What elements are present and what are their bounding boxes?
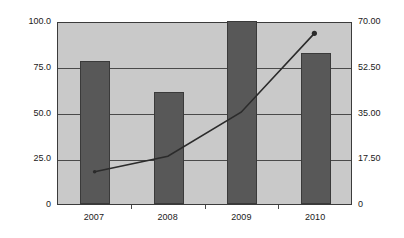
bar-2008 xyxy=(154,92,184,204)
left-axis-tick-label: 0 xyxy=(5,200,51,209)
category-label-2007: 2007 xyxy=(57,212,131,223)
category-tick xyxy=(278,205,279,209)
bar-series xyxy=(58,23,351,204)
chart-container: 025.050.075.0100.0 017.5035.0052.5070.00… xyxy=(0,0,404,238)
right-axis-tick-label: 70.00 xyxy=(358,17,404,26)
category-tick xyxy=(131,205,132,209)
bar-2009 xyxy=(227,21,257,204)
left-value-axis: 025.050.075.0100.0 xyxy=(0,22,51,205)
left-axis-tick-label: 100.0 xyxy=(5,17,51,26)
category-label-2010: 2010 xyxy=(278,212,352,223)
right-axis-tick-label: 52.50 xyxy=(358,63,404,72)
right-value-axis: 017.5035.0052.5070.00 xyxy=(358,22,404,205)
category-label-2008: 2008 xyxy=(131,212,205,223)
right-axis-tick-label: 35.00 xyxy=(358,109,404,118)
category-axis: 2007200820092010 xyxy=(57,212,352,228)
left-axis-tick-label: 75.0 xyxy=(5,63,51,72)
left-axis-tick-label: 50.0 xyxy=(5,109,51,118)
bar-2007 xyxy=(80,61,110,204)
right-axis-tick-label: 17.50 xyxy=(358,154,404,163)
plot-area xyxy=(57,22,352,205)
bar-2010 xyxy=(301,53,331,204)
left-axis-tick-label: 25.0 xyxy=(5,154,51,163)
right-axis-tick-label: 0 xyxy=(358,200,404,209)
category-label-2009: 2009 xyxy=(205,212,279,223)
category-tick xyxy=(205,205,206,209)
